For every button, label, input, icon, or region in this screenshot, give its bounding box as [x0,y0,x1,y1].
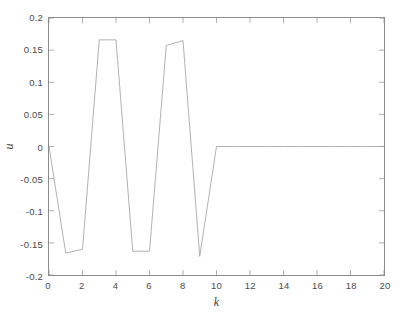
y-tick-label: -0.15 [20,238,43,249]
y-tick-label: 0.1 [29,76,43,87]
y-tick-label: 0 [38,141,43,152]
x-tick-label: 6 [146,280,151,291]
x-axis-label: k [48,295,385,310]
y-axis-label: u [2,17,16,276]
x-axis-tick-labels: 02468101214161820 [48,280,385,294]
y-tick-label: 0.2 [29,12,43,23]
y-tick-label: 0.05 [24,109,43,120]
data-line-series [49,18,384,275]
x-tick-label: 12 [245,280,256,291]
x-tick-label: 2 [79,280,84,291]
x-tick-label: 18 [346,280,357,291]
y-tick-label: -0.1 [26,206,43,217]
y-tick-label: -0.05 [20,173,43,184]
x-tick-label: 8 [180,280,185,291]
x-tick-label: 14 [278,280,289,291]
plot-area [48,17,385,276]
x-tick-label: 0 [45,280,50,291]
y-tick-label: -0.2 [26,271,43,282]
series-line-u [49,40,384,257]
x-tick-label: 16 [312,280,323,291]
x-tick-label: 10 [211,280,222,291]
y-tick-label: 0.15 [24,44,43,55]
chart-figure: 0.20.150.10.050-0.05-0.1-0.15-0.2 024681… [0,0,402,318]
x-tick-label: 4 [113,280,118,291]
x-tick-label: 20 [380,280,391,291]
